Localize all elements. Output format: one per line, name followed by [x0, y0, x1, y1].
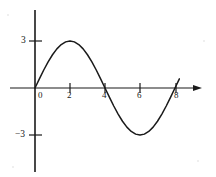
x-tick-label-4: 4 — [102, 91, 107, 100]
y-tick-label-3: 3 — [21, 36, 26, 46]
axis-label-origin: 0 — [38, 91, 43, 100]
y-tick-label-minus-3: −3 — [15, 130, 25, 140]
x-tick-label-2: 2 — [67, 91, 72, 100]
scan-speck — [203, 40, 205, 42]
scan-speck — [12, 166, 14, 168]
x-axis-arrow-icon — [193, 85, 202, 91]
scan-speck — [7, 14, 9, 16]
x-tick-label-6: 6 — [137, 91, 142, 100]
sine-curve-plot — [0, 0, 216, 177]
scan-speck — [197, 160, 199, 162]
graph-figure: 0 2 4 6 8 3 −3 — [0, 0, 216, 177]
x-tick-label-8: 8 — [174, 91, 179, 100]
